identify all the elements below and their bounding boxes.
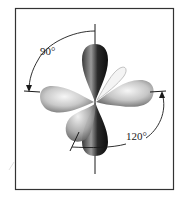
angle-label-120: 120° xyxy=(126,130,147,142)
orbital-diagram: 90° 120° xyxy=(0,0,182,202)
lobe-left xyxy=(40,86,94,112)
left-axis-tick xyxy=(24,91,40,92)
angle-label-90: 90° xyxy=(40,45,55,57)
stray-mark xyxy=(9,162,14,170)
arrowhead-120-icon xyxy=(159,91,165,98)
orbital-diagram-svg: 90° 120° xyxy=(0,0,182,202)
